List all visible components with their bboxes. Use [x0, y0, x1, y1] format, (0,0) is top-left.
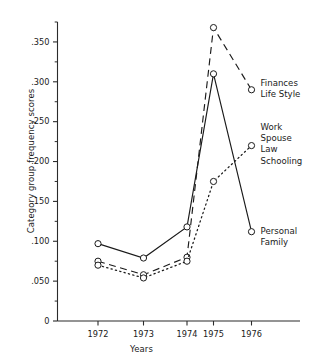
data-point-marker	[140, 275, 146, 281]
line-chart: Category group frequency scores Years 0.…	[0, 0, 321, 363]
data-point-marker	[248, 87, 254, 93]
series-label-line: Personal	[261, 226, 298, 237]
y-tick-label: .050	[14, 276, 50, 286]
x-tick-label: 1976	[232, 329, 272, 339]
series-line-1	[98, 146, 252, 278]
x-tick-label: 1975	[194, 329, 234, 339]
y-tick-label: .200	[14, 156, 50, 166]
series-label-work-spouse-law-schooling: Work Spouse Law Schooling	[261, 122, 303, 168]
data-point-marker	[95, 241, 101, 247]
series-label-finances-life-style: Finances Life Style	[261, 78, 301, 101]
series-label-personal-family: Personal Family	[261, 226, 298, 249]
y-tick-label: .300	[14, 77, 50, 87]
y-tick-label: .350	[14, 37, 50, 47]
series-label-line: Law	[261, 144, 303, 155]
data-point-marker	[248, 229, 254, 235]
x-axis-title: Years	[130, 344, 153, 354]
plot-area	[0, 0, 321, 363]
series-label-line: Family	[261, 237, 298, 248]
series-label-line: Life Style	[261, 89, 301, 100]
y-tick-label: .250	[14, 116, 50, 126]
series-label-line: Finances	[261, 78, 301, 89]
series-line-2	[98, 74, 252, 258]
series-label-line: Work	[261, 122, 303, 133]
data-point-marker	[140, 255, 146, 261]
data-point-marker	[184, 258, 190, 264]
data-point-marker	[184, 224, 190, 230]
y-tick-label: .100	[14, 236, 50, 246]
data-point-marker	[210, 71, 216, 77]
series-line-0	[98, 28, 252, 275]
y-tick-label: 0	[14, 316, 50, 326]
series-label-line: Schooling	[261, 156, 303, 167]
x-tick-label: 1972	[78, 329, 118, 339]
data-point-marker	[210, 178, 216, 184]
series-label-line: Spouse	[261, 133, 303, 144]
data-point-marker	[95, 262, 101, 268]
y-tick-label: .150	[14, 196, 50, 206]
x-tick-label: 1973	[124, 329, 164, 339]
data-point-marker	[210, 24, 216, 30]
data-point-marker	[248, 142, 254, 148]
